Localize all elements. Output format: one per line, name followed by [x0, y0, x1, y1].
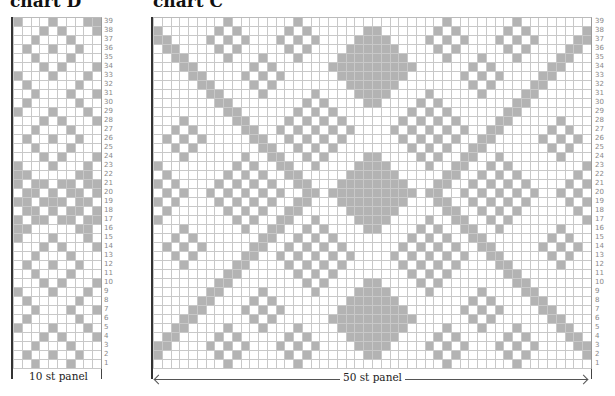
- stitch-cell: [83, 216, 92, 225]
- stitch-cell: [530, 162, 539, 171]
- stitch-cell: [48, 45, 57, 54]
- stitch-cell: [249, 315, 258, 324]
- stitch-cell: [328, 207, 337, 216]
- stitch-cell: [495, 306, 504, 315]
- stitch-cell: [337, 54, 346, 63]
- stitch-cell: [232, 333, 241, 342]
- stitch-cell: [179, 162, 188, 171]
- stitch-cell: [31, 108, 40, 117]
- stitch-cell: [547, 117, 556, 126]
- stitch-cell: [162, 99, 171, 108]
- stitch-cell: [407, 297, 416, 306]
- stitch-cell: [363, 225, 372, 234]
- stitch-cell: [276, 108, 285, 117]
- stitch-cell: [451, 171, 460, 180]
- stitch-cell: [372, 270, 381, 279]
- stitch-cell: [66, 180, 75, 189]
- stitch-cell: [573, 63, 582, 72]
- stitch-cell: [460, 234, 469, 243]
- stitch-cell: [460, 144, 469, 153]
- stitch-cell: [284, 360, 293, 369]
- stitch-cell: [381, 18, 390, 27]
- stitch-cell: [573, 99, 582, 108]
- stitch-cell: [372, 324, 381, 333]
- stitch-cell: [495, 162, 504, 171]
- stitch-cell: [31, 180, 40, 189]
- row-number: 21: [104, 179, 113, 188]
- stitch-cell: [258, 45, 267, 54]
- stitch-cell: [390, 270, 399, 279]
- stitch-cell: [451, 144, 460, 153]
- stitch-cell: [530, 54, 539, 63]
- stitch-cell: [407, 135, 416, 144]
- stitch-cell: [390, 36, 399, 45]
- stitch-cell: [214, 225, 223, 234]
- stitch-cell: [416, 81, 425, 90]
- stitch-cell: [451, 252, 460, 261]
- stitch-cell: [398, 225, 407, 234]
- stitch-cell: [75, 108, 84, 117]
- stitch-cell: [171, 261, 180, 270]
- stitch-cell: [477, 180, 486, 189]
- stitch-cell: [22, 45, 31, 54]
- stitch-cell: [565, 180, 574, 189]
- stitch-cell: [433, 144, 442, 153]
- stitch-cell: [241, 45, 250, 54]
- stitch-cell: [206, 171, 215, 180]
- stitch-cell: [31, 252, 40, 261]
- stitch-cell: [197, 117, 206, 126]
- stitch-cell: [48, 135, 57, 144]
- stitch-cell: [565, 162, 574, 171]
- stitch-cell: [302, 180, 311, 189]
- stitch-cell: [267, 315, 276, 324]
- stitch-cell: [13, 63, 22, 72]
- stitch-cell: [232, 45, 241, 54]
- stitch-cell: [293, 306, 302, 315]
- stitch-cell: [302, 216, 311, 225]
- stitch-cell: [232, 18, 241, 27]
- stitch-cell: [57, 18, 66, 27]
- stitch-cell: [75, 81, 84, 90]
- stitch-cell: [232, 54, 241, 63]
- stitch-cell: [66, 144, 75, 153]
- stitch-cell: [477, 63, 486, 72]
- stitch-cell: [328, 81, 337, 90]
- stitch-cell: [582, 324, 591, 333]
- stitch-cell: [188, 135, 197, 144]
- stitch-cell: [538, 171, 547, 180]
- stitch-cell: [57, 207, 66, 216]
- stitch-cell: [582, 198, 591, 207]
- stitch-cell: [223, 72, 232, 81]
- stitch-cell: [512, 99, 521, 108]
- stitch-cell: [363, 252, 372, 261]
- stitch-cell: [547, 153, 556, 162]
- stitch-cell: [381, 45, 390, 54]
- stitch-cell: [319, 144, 328, 153]
- stitch-cell: [495, 90, 504, 99]
- stitch-cell: [565, 333, 574, 342]
- stitch-cell: [171, 81, 180, 90]
- stitch-cell: [390, 306, 399, 315]
- row-number: 9: [104, 287, 108, 296]
- stitch-cell: [267, 252, 276, 261]
- stitch-cell: [83, 135, 92, 144]
- stitch-cell: [293, 333, 302, 342]
- stitch-cell: [530, 36, 539, 45]
- stitch-cell: [556, 261, 565, 270]
- stitch-cell: [39, 198, 48, 207]
- stitch-cell: [451, 162, 460, 171]
- stitch-cell: [530, 198, 539, 207]
- stitch-cell: [188, 27, 197, 36]
- stitch-cell: [556, 144, 565, 153]
- stitch-cell: [232, 126, 241, 135]
- stitch-cell: [276, 81, 285, 90]
- stitch-cell: [398, 207, 407, 216]
- row-number: 17: [595, 215, 604, 224]
- stitch-cell: [573, 153, 582, 162]
- stitch-cell: [171, 18, 180, 27]
- stitch-cell: [416, 252, 425, 261]
- stitch-cell: [214, 36, 223, 45]
- stitch-cell: [258, 270, 267, 279]
- stitch-cell: [92, 333, 101, 342]
- stitch-cell: [197, 90, 206, 99]
